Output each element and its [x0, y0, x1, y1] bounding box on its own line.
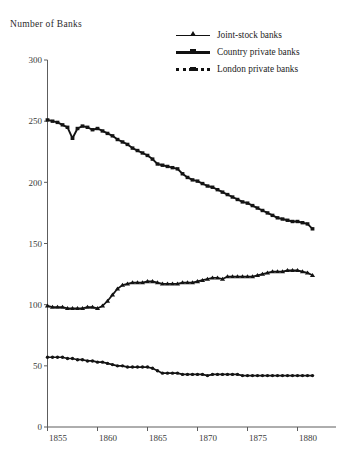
y-tick-label: 250 — [29, 116, 43, 126]
chart-container: Number of Banks Joint-stock banks Countr… — [0, 0, 343, 470]
x-tick-label: 1880 — [299, 433, 318, 443]
x-tick-label: 1860 — [99, 433, 118, 443]
series-joint-stock-banks — [45, 268, 315, 310]
y-tick-label: 150 — [29, 239, 43, 249]
series-london-private-banks — [46, 356, 314, 378]
x-tick-label: 1870 — [199, 433, 218, 443]
x-tick-label: 1865 — [149, 433, 168, 443]
y-tick-label: 50 — [33, 361, 43, 371]
y-tick-label: 0 — [38, 422, 43, 432]
y-tick-label: 100 — [29, 300, 43, 310]
x-tick-label: 1875 — [249, 433, 268, 443]
y-tick-label: 300 — [29, 55, 43, 65]
x-tick-label: 1855 — [49, 433, 68, 443]
y-tick-label: 200 — [29, 178, 43, 188]
plot-area: 0501001502002503001855186018651870187518… — [0, 0, 343, 470]
series-country-private-banks — [46, 118, 315, 230]
